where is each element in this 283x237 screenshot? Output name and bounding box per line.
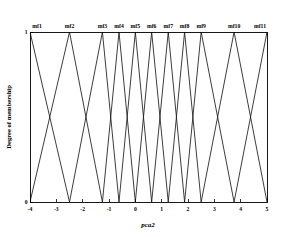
y-tick-label: 0 [25,199,28,205]
mf-label-mf1: mf1 [32,23,42,29]
mf-label-mf9: mf9 [196,23,206,29]
mf-curve-mf7 [152,32,185,202]
x-tick-label: 0 [134,206,137,212]
y-tick-label: 1 [25,29,28,35]
mf-label-mf6: mf6 [147,23,157,29]
mf-label-mf11: mf11 [254,23,266,29]
x-tick-label: 4 [239,206,242,212]
mf-curve-mf2 [30,32,102,202]
mf-label-mf7: mf7 [164,23,174,29]
mf-label-mf3: mf3 [98,23,108,29]
mf-curve-mf8 [168,32,201,202]
mf-label-mf8: mf8 [180,23,190,29]
mf-curve-mf3 [70,32,120,202]
mf-curve-mf4 [102,32,135,202]
axis-box [30,32,267,202]
mf-curve-mf5 [119,32,152,202]
x-tick-label: 1 [160,206,163,212]
x-axis-title: pca2 [140,221,155,229]
mf-curve-mf6 [135,32,168,202]
x-tick-label: -1 [107,206,112,212]
membership-function-chart: -4-3-2-1012345 01 mf1mf2mf3mf4mf5mf6mf7m… [0,0,283,237]
plot-frame [30,32,267,202]
y-axis-title: Degree of membership [5,85,12,149]
x-tick-group: -4-3-2-1012345 [28,199,269,212]
mf-curve-group [0,32,283,202]
x-tick-label: 2 [187,206,190,212]
x-tick-label: 3 [213,206,216,212]
mf-curve-mf11 [234,32,283,202]
x-tick-label: -2 [80,206,85,212]
x-tick-label: -3 [54,206,59,212]
x-tick-label: 5 [266,206,269,212]
mf-label-mf2: mf2 [65,23,75,29]
y-tick-group: 01 [25,29,33,205]
mf-label-group: mf1mf2mf3mf4mf5mf6mf7mf8mf9mf10mf11 [32,23,266,29]
mf-label-mf4: mf4 [114,23,124,29]
mf-curve-mf9 [185,32,235,202]
figure-container: -4-3-2-1012345 01 mf1mf2mf3mf4mf5mf6mf7m… [0,0,283,237]
x-tick-label: -4 [28,206,33,212]
mf-curve-mf10 [201,32,267,202]
mf-label-mf10: mf10 [228,23,240,29]
mf-label-mf5: mf5 [131,23,141,29]
